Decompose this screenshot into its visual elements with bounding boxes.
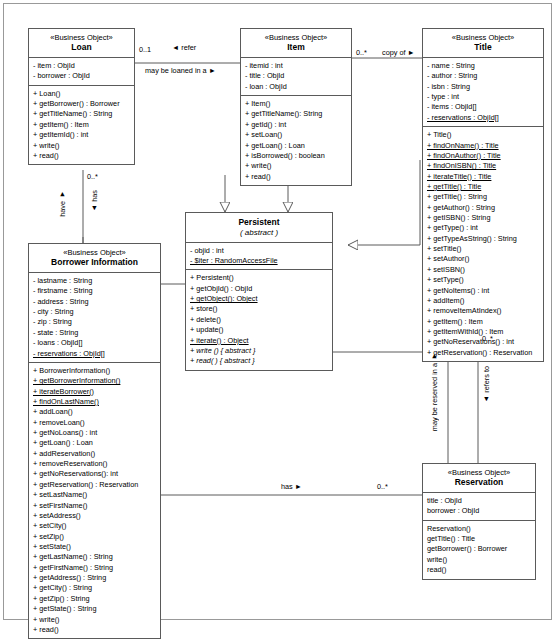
operation: + getReservation() : Reservation	[427, 348, 539, 358]
class-borrower-name: Borrower Information	[31, 257, 158, 268]
class-loan-operations: + Loan() + getBorrower() : Borrower + ge…	[29, 86, 134, 165]
class-item-stereotype: «Business Object»	[243, 33, 349, 42]
operation: + getReservation() : Reservation	[33, 480, 156, 490]
class-item-attributes: - itemid : int - title : ObjId - loan : …	[241, 58, 351, 96]
attribute: - itemid : int	[245, 61, 347, 71]
operation: + getBorrowerInformation()	[33, 376, 156, 386]
attribute: - item : ObjId	[33, 61, 130, 71]
operation: + getItem() : Item	[33, 120, 130, 130]
operation: + setLastName()	[33, 490, 156, 500]
class-persistent[interactable]: Persistent ( abstract ) - objid : int - …	[185, 212, 333, 371]
operation: + getLoan() : Loan	[245, 141, 347, 151]
class-borrower-information[interactable]: «Business Object» Borrower Information -…	[28, 243, 161, 639]
class-title-name: Title	[425, 42, 541, 53]
assoc-label-may-be-reserved-in-a: may be reserved in a ▼	[430, 352, 439, 431]
class-borrower-attributes: - lastname : String - firstname : String…	[29, 273, 160, 363]
class-borrower-stereotype: «Business Object»	[31, 248, 158, 257]
operation: + addReservation()	[33, 449, 156, 459]
operation: + getState() : String	[33, 604, 156, 614]
attribute: - type : int	[427, 92, 539, 102]
class-persistent-name: Persistent	[188, 217, 330, 228]
operation: + getNoItems() : int	[427, 286, 539, 296]
operation: + getItemId() : int	[33, 130, 130, 140]
operation: + setZip()	[33, 532, 156, 542]
class-loan[interactable]: «Business Object» Loan - item : ObjId - …	[28, 28, 135, 165]
operation: + setType()	[427, 275, 539, 285]
operation: + write()	[33, 615, 156, 625]
operation: + setState()	[33, 542, 156, 552]
operation: + read( ) { abstract }	[190, 356, 328, 366]
operation: + getAddress() : String	[33, 573, 156, 583]
operation: + delete()	[190, 315, 328, 325]
operation: + removeLoan()	[33, 418, 156, 428]
operation: + Persistent()	[190, 273, 328, 283]
assoc-label-title-reservation-multiplicity: 0..*	[482, 334, 493, 343]
class-loan-attributes: - item : ObjId - borrower : ObjId	[29, 58, 134, 86]
operation: + setCity()	[33, 521, 156, 531]
class-reservation-stereotype: «Business Object»	[425, 468, 533, 477]
assoc-label-has-loan-borrower: ▲ has	[90, 190, 99, 213]
attribute: - zip : String	[33, 317, 156, 327]
operation: + removeReservation()	[33, 459, 156, 469]
class-loan-header: «Business Object» Loan	[29, 29, 134, 58]
operation: + write () { abstract }	[190, 346, 328, 356]
operation: + getBorrower() : Borrower	[33, 99, 130, 109]
assoc-label-may-be-loaned-in-a: may be loaned in a ►	[145, 66, 216, 75]
attribute: - $iter : RandomAccessFile	[190, 256, 328, 266]
class-title[interactable]: «Business Object» Title - name : String …	[422, 28, 544, 362]
attribute: - loans : ObjId[]	[33, 338, 156, 348]
operation: + getTypeAsString() : String	[427, 234, 539, 244]
class-persistent-attributes: - objid : int - $iter : RandomAccessFile	[186, 243, 332, 271]
attribute: - isbn : String	[427, 82, 539, 92]
operation: + getISBN() : String	[427, 213, 539, 223]
class-persistent-header: Persistent ( abstract )	[186, 213, 332, 243]
class-item[interactable]: «Business Object» Item - itemid : int - …	[240, 28, 352, 186]
operation: + iterateBorrower()	[33, 387, 156, 397]
operation: write()	[427, 555, 531, 565]
attribute: - lastname : String	[33, 276, 156, 286]
class-title-operations: + Title() + findOnName() : Title + findO…	[423, 127, 543, 361]
operation: getTitle() : Title	[427, 534, 531, 544]
operation: + BorrowerInformation()	[33, 366, 156, 376]
attribute: - name : String	[427, 61, 539, 71]
operation: + findOnAuthor() : Title	[427, 151, 539, 161]
attribute: - author : String	[427, 71, 539, 81]
class-reservation-name: Reservation	[425, 477, 533, 488]
assoc-label-refer: ◄ refer	[172, 43, 196, 52]
operation: + getFirstName() : String	[33, 563, 156, 573]
gen-title-persistent	[348, 160, 420, 245]
operation: + setLoan()	[245, 130, 347, 140]
operation: + getNoLoans() : int	[33, 428, 156, 438]
attribute: - loan : ObjId	[245, 82, 347, 92]
class-reservation[interactable]: «Business Object» Reservation title : Ob…	[422, 463, 536, 580]
attribute: - address : String	[33, 297, 156, 307]
class-reservation-header: «Business Object» Reservation	[423, 464, 535, 493]
operation: + isBorrowed() : boolean	[245, 151, 347, 161]
operation: + iterate() : Object	[190, 336, 328, 346]
operation: + getObjId() : ObjId	[190, 284, 328, 294]
assoc-label-item-title-multiplicity: 0..*	[356, 48, 367, 57]
attribute: - reservations : ObjId[]	[427, 113, 539, 123]
assoc-label-copy-of: copy of ►	[382, 48, 415, 57]
operation: + findOnName() : Title	[427, 141, 539, 151]
operation: + getItem() : Item	[427, 317, 539, 327]
class-reservation-operations: Reservation() getTitle() : Title getBorr…	[423, 521, 535, 579]
operation: + getLastName() : String	[33, 552, 156, 562]
assoc-label-have: have ▼	[58, 190, 67, 217]
assoc-label-loan-borrower-multiplicity: 0..*	[87, 172, 98, 181]
operation: + getZip() : String	[33, 594, 156, 604]
attribute: - city : String	[33, 307, 156, 317]
operation: + Title()	[427, 130, 539, 140]
operation: getBorrower() : Borrower	[427, 544, 531, 554]
class-title-header: «Business Object» Title	[423, 29, 543, 58]
operation: + getId() : int	[245, 120, 347, 130]
operation: + addItem()	[427, 296, 539, 306]
class-title-stereotype: «Business Object»	[425, 33, 541, 42]
operation: + getLoan() : Loan	[33, 438, 156, 448]
operation: + getObject(): Object	[190, 294, 328, 304]
class-item-header: «Business Object» Item	[241, 29, 351, 58]
operation: + setAuthor()	[427, 254, 539, 264]
operation: + setTitle()	[427, 244, 539, 254]
operation: + iterateTitle() : Title	[427, 172, 539, 182]
assoc-label-loan-item-multiplicity: 0..1	[139, 45, 151, 54]
